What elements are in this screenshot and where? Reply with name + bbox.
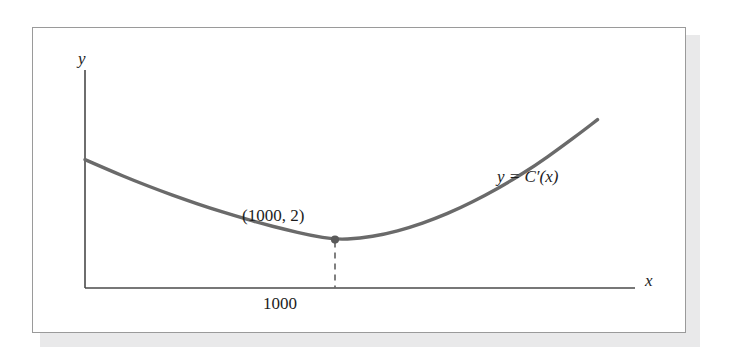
x-axis-label: x (645, 272, 653, 289)
plot-canvas (0, 0, 732, 363)
x-tick-label-1000: 1000 (263, 295, 297, 312)
curve-equation-label: y = C′(x) (497, 168, 558, 185)
figure-root: y x 1000 (1000, 2) y = C′(x) (0, 0, 732, 363)
y-axis-label: y (78, 50, 86, 67)
minimum-point-marker (331, 235, 339, 243)
minimum-point-label: (1000, 2) (242, 207, 304, 224)
